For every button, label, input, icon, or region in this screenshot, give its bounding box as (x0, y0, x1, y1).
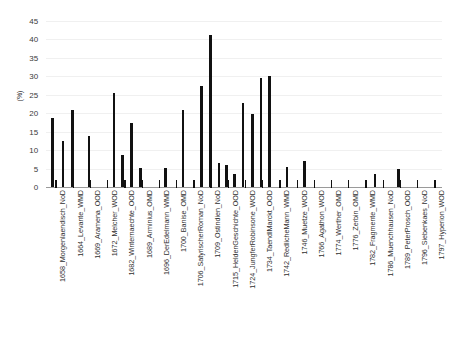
x-axis-tick (400, 180, 401, 188)
x-axis-tick-label: 1689_Arminius_OMD (145, 190, 154, 258)
gridline (46, 39, 442, 40)
x-axis-tick-label: 1700_Banise_OMD (179, 190, 188, 252)
x-axis-tick (73, 180, 74, 188)
y-axis-tick-label: 35 (0, 53, 38, 62)
x-axis-tick (434, 180, 435, 188)
x-axis-tick-label: 1782_Fragmente_WMD (368, 190, 377, 266)
x-axis-tick-label: 1724_JungferRobinsone_WOD (248, 190, 257, 289)
x-axis-tick-label: 1789_PeterProsch_OOD (403, 190, 412, 269)
x-axis-tick (314, 180, 315, 188)
x-axis-tick (348, 180, 349, 188)
x-axis-tick (331, 180, 332, 188)
bar (268, 76, 271, 187)
x-axis-tick-label: 1786_Muenchhausen_NoD (386, 190, 395, 276)
x-axis-tick (297, 180, 298, 188)
x-axis-tick-label: 1796_Siebenkaes_NoD (420, 190, 429, 265)
x-axis-tick-label: 1709_Ostindien_NoD (213, 190, 222, 258)
x-axis-tick-label: 1664_Levante_WMD (76, 190, 85, 257)
x-axis-tick-label: 1672_Melcher_WOD (110, 190, 119, 256)
y-axis-tick-label: 0 (0, 183, 38, 192)
x-axis-tick (159, 180, 160, 188)
x-axis-tick (383, 180, 384, 188)
gridline (46, 76, 442, 77)
x-axis-tick-label: 1706_SatyrischerRoman_NoD (196, 190, 205, 286)
x-axis-tick (55, 180, 56, 188)
bar (242, 103, 245, 187)
x-axis-tick (107, 180, 108, 188)
y-axis-tick-label: 25 (0, 90, 38, 99)
bar (71, 110, 74, 187)
x-axis-tick-label: 1696_DerEdelmann_WMD (162, 190, 171, 275)
x-axis-tick (142, 180, 143, 188)
x-axis-tick-label: 1746_Muetze_WOD (300, 190, 309, 254)
bar (260, 78, 263, 187)
x-axis-tick-label: 1776_Zerbin_OMD (351, 190, 360, 250)
x-axis-tick (245, 180, 246, 188)
y-axis-tick-label: 15 (0, 127, 38, 136)
x-axis-tick (262, 180, 263, 188)
bar (182, 110, 185, 187)
x-axis-tick-label: 1669_Aramena_OOD (93, 190, 102, 259)
gridline (46, 21, 442, 22)
x-axis-tick (365, 180, 366, 188)
x-axis-tick (124, 180, 125, 188)
x-axis-tick (193, 180, 194, 188)
x-axis-tick (279, 180, 280, 188)
bar (251, 114, 254, 187)
x-axis-tick-label: 1734_TaendlMarckt_OOD (265, 190, 274, 272)
y-axis-tick-label: 45 (0, 17, 38, 26)
bar-chart: (%) 051015202530354045 1658_Morgenlaendi… (0, 0, 450, 339)
x-axis-tick-label: 1715_HeldenGeschichte_OOD (231, 190, 240, 288)
x-axis-tick (176, 180, 177, 188)
gridline (46, 58, 442, 59)
bar (130, 123, 133, 187)
y-axis-tick-label: 20 (0, 109, 38, 118)
x-axis-tick (228, 180, 229, 188)
y-axis-tick-label: 10 (0, 146, 38, 155)
x-axis-tick (417, 180, 418, 188)
x-axis-ticks (46, 180, 442, 189)
bar (51, 118, 54, 187)
x-axis-tick-label: 1682_Winternaechte_OOD (127, 190, 136, 276)
x-axis-tick-label: 1797_Hyperion_WOD (437, 190, 446, 259)
bar (113, 93, 116, 187)
x-axis-tick-label: 1658_Morgenlaendisch_NoD (58, 190, 67, 282)
x-axis-labels: 1658_Morgenlaendisch_NoD1664_Levante_WMD… (46, 190, 442, 339)
x-axis-tick (210, 180, 211, 188)
y-axis-tick-label: 40 (0, 35, 38, 44)
plot-area (46, 21, 442, 187)
x-axis-tick (90, 180, 91, 188)
bar (200, 86, 203, 187)
x-axis-tick-label: 1766_Agathon_WOD (317, 190, 326, 258)
gridline (46, 95, 442, 96)
y-axis-tick-label: 5 (0, 164, 38, 173)
x-axis-tick-label: 1774_Werther_OMD (334, 190, 343, 255)
x-axis-tick-label: 1742_RedlicheMann_WMD (282, 190, 291, 277)
bar (209, 35, 212, 187)
y-axis-tick-label: 30 (0, 72, 38, 81)
